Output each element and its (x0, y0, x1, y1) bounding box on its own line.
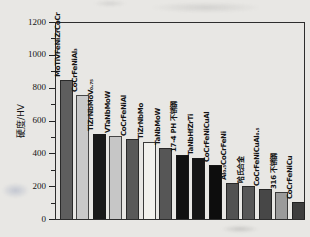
bar-label-0: MoTiVFeNiZrCoCr (54, 13, 62, 77)
y-tick-label-0: 0 (0, 214, 46, 225)
bar-11 (242, 186, 255, 219)
bar-4 (126, 139, 139, 219)
bar-label-1: CoCrFeNiAl₃ (71, 48, 79, 92)
bar-label-9: CoCrFeNiCuAl (203, 112, 211, 162)
bar-label-4: CoCrFeNiAl (120, 95, 128, 136)
bar-label-5: TiZrNbMo (137, 103, 145, 139)
y-tick-label-200: 200 (0, 181, 46, 192)
bar-label-6: TaNbMoW (154, 108, 162, 145)
bar-label-14: CoCrFeNiCu (286, 156, 294, 199)
bar-6 (159, 148, 172, 219)
bar-label-11: 哈氏合金 (237, 156, 245, 183)
y-tick-label-1000: 1000 (0, 49, 46, 60)
bar-14 (292, 202, 305, 219)
y-tick-label-400: 400 (0, 148, 46, 159)
bar-0 (60, 80, 73, 219)
bar-label-7: 17-4 PH 不锈钢 (170, 101, 178, 152)
bar-label-8: TaNbHfZrTi (187, 114, 195, 155)
bar-7 (176, 155, 189, 219)
bar-label-2: TiZrNbMoV₀.₇₅ (87, 79, 95, 131)
bar-3 (109, 136, 122, 219)
y-tick-label-1200: 1200 (0, 17, 46, 28)
y-tick-label-800: 800 (0, 82, 46, 93)
bar-2 (93, 134, 106, 219)
scan-artifact (221, 225, 259, 233)
bar-12 (259, 189, 272, 219)
bar-label-3: VTaNbMoW (104, 91, 112, 133)
scan-artifact (150, 2, 262, 13)
bar-label-13: 316 不锈钢 (270, 153, 278, 189)
y-tick-label-600: 600 (0, 115, 46, 126)
bar-label-10: Al₀.₅CoCrFeNi (220, 131, 228, 180)
bar-8 (192, 158, 205, 219)
plot-area: MoTiVFeNiZrCoCrCoCrFeNiAl₃TiZrNbMoV₀.₇₅V… (55, 22, 305, 220)
scan-artifact (93, 0, 127, 7)
bar-5 (143, 142, 156, 219)
hardness-bar-chart-figure: 硬度/HV 020040060080010001200 MoTiVFeNiZrC… (0, 0, 310, 237)
bar-label-12: CoCrFeNiCuAl₀.₅ (253, 128, 261, 186)
bar-10 (226, 183, 239, 219)
